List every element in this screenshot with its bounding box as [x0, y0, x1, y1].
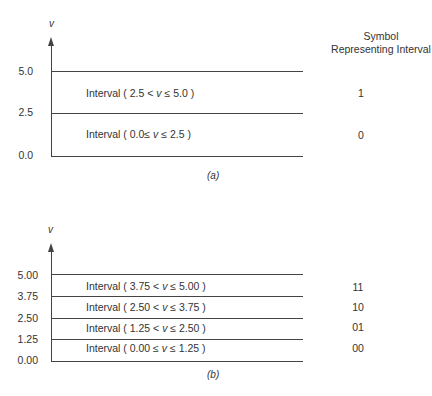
symbol-column-header: Symbol Representing Interval — [316, 30, 432, 56]
grid-line-2.5 — [51, 113, 303, 114]
grid-line-2.50 — [51, 318, 303, 319]
grid-line-0.0 — [51, 156, 303, 157]
interval-text: ≤ 5.00 ) — [167, 280, 205, 292]
interval-text: Interval ( 1.25 < — [86, 322, 162, 334]
symbol-value: 01 — [338, 321, 378, 333]
vertical-axis — [51, 248, 52, 361]
tick-label: 2.50 — [2, 312, 38, 324]
caption-b: (b) — [207, 369, 219, 380]
grid-line-0.00 — [51, 361, 303, 362]
tick-label: 0.00 — [2, 354, 38, 366]
vertical-axis — [51, 42, 52, 157]
symbol-value: 00 — [338, 342, 378, 354]
grid-line-3.75 — [51, 296, 303, 297]
axis-label-v: v — [49, 18, 54, 29]
interval-text: Interval ( 0.00 ≤ — [86, 342, 162, 354]
interval-text: ≤ 5.0 ) — [162, 87, 195, 99]
interval-text: Interval ( 3.75 < — [86, 280, 162, 292]
interval-text: ≤ 2.50 ) — [167, 322, 205, 334]
tick-label: 2.5 — [0, 106, 33, 118]
axis-label-v: v — [48, 224, 53, 235]
grid-line-5.0 — [51, 71, 303, 72]
grid-line-5.00 — [51, 274, 303, 275]
tick-label: 3.75 — [2, 290, 38, 302]
header-line-1: Symbol — [316, 30, 432, 43]
interval-label: Interval ( 0.00 ≤ v ≤ 1.25 ) — [86, 342, 206, 354]
caption-a: (a) — [207, 170, 219, 181]
interval-text: ≤ 3.75 ) — [167, 301, 205, 313]
interval-text: ≤ 1.25 ) — [167, 342, 205, 354]
interval-label: Interval ( 2.50 < v ≤ 3.75 ) — [86, 301, 206, 313]
interval-label: Interval ( 0.0≤ v ≤ 2.5 ) — [86, 128, 191, 140]
interval-text: Interval ( 0.0≤ — [86, 128, 153, 140]
header-line-2: Representing Interval — [316, 43, 432, 56]
interval-text: ≤ 2.5 ) — [158, 128, 191, 140]
tick-label: 5.0 — [0, 65, 33, 77]
tick-label: 1.25 — [2, 333, 38, 345]
symbol-value: 11 — [338, 281, 378, 293]
interval-text: Interval ( 2.5 < — [86, 87, 156, 99]
symbol-value: 10 — [338, 301, 378, 313]
symbol-value: 1 — [341, 87, 381, 99]
tick-label: 5.00 — [2, 269, 38, 281]
interval-label: Interval ( 2.5 < v ≤ 5.0 ) — [86, 87, 194, 99]
grid-line-1.25 — [51, 339, 303, 340]
interval-text: Interval ( 2.50 < — [86, 301, 162, 313]
symbol-value: 0 — [341, 129, 381, 141]
tick-label: 0.0 — [0, 149, 33, 161]
interval-label: Interval ( 3.75 < v ≤ 5.00 ) — [86, 280, 206, 292]
interval-label: Interval ( 1.25 < v ≤ 2.50 ) — [86, 322, 206, 334]
